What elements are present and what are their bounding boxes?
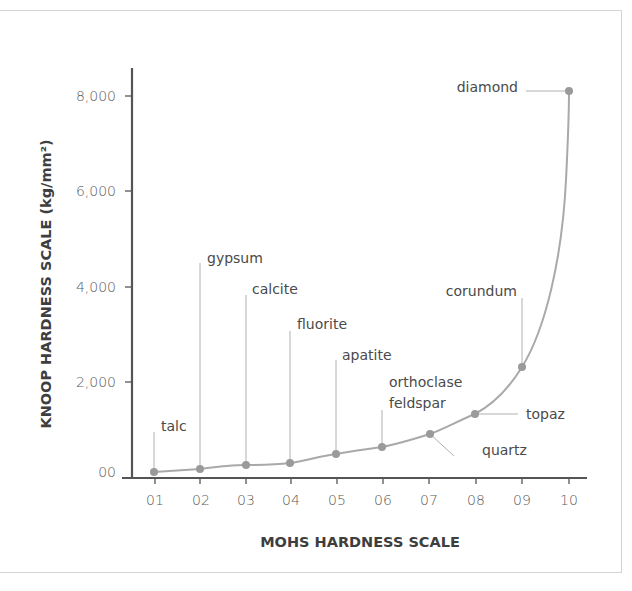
label-diamond: diamond xyxy=(457,79,518,95)
point-apatite xyxy=(332,450,340,458)
y-tick-labels: 8,000 6,000 4,000 2,000 00 xyxy=(76,88,116,480)
y-tick-label: 00 xyxy=(98,464,116,480)
x-tick-label: 01 xyxy=(146,492,164,508)
y-tick-label: 6,000 xyxy=(76,183,116,199)
x-tick-labels: 01 02 03 04 05 06 07 08 09 10 xyxy=(146,492,578,508)
y-tick-label: 8,000 xyxy=(76,88,116,104)
y-tick-label: 4,000 xyxy=(76,279,116,295)
label-apatite: apatite xyxy=(342,347,392,363)
point-gypsum xyxy=(196,465,204,473)
x-tick-label: 10 xyxy=(560,492,578,508)
point-talc xyxy=(150,468,158,476)
label-talc: talc xyxy=(161,418,187,434)
data-points xyxy=(150,87,573,476)
x-tick-label: 07 xyxy=(420,492,438,508)
x-tick-label: 05 xyxy=(328,492,346,508)
y-tick-label: 2,000 xyxy=(76,374,116,390)
label-fluorite: fluorite xyxy=(297,316,347,332)
point-calcite xyxy=(242,461,250,469)
label-quartz: quartz xyxy=(482,442,527,458)
point-orthoclase xyxy=(378,443,386,451)
hardness-curve xyxy=(154,91,569,472)
label-corundum: corundum xyxy=(446,283,517,299)
point-quartz xyxy=(426,430,434,438)
point-topaz xyxy=(471,410,479,418)
hardness-chart: KNOOP HARDNESS SCALE (kg/mm²) 8,000 6,00… xyxy=(0,0,632,591)
x-tick-label: 06 xyxy=(374,492,392,508)
x-tick-label: 08 xyxy=(467,492,485,508)
label-calcite: calcite xyxy=(252,281,298,297)
x-axis-title: MOHS HARDNESS SCALE xyxy=(260,534,460,550)
point-fluorite xyxy=(286,459,294,467)
x-tick-label: 04 xyxy=(282,492,300,508)
point-diamond xyxy=(565,87,573,95)
x-tick-label: 02 xyxy=(192,492,210,508)
x-tick-label: 03 xyxy=(237,492,255,508)
mineral-labels: talc gypsum calcite fluorite apatite ort… xyxy=(161,79,565,458)
label-topaz: topaz xyxy=(526,406,565,422)
label-gypsum: gypsum xyxy=(207,250,263,266)
leader-lines xyxy=(154,91,568,471)
y-axis-title: KNOOP HARDNESS SCALE (kg/mm²) xyxy=(38,139,54,428)
y-ticks xyxy=(125,96,131,382)
point-corundum xyxy=(518,363,526,371)
label-feldspar: feldspar xyxy=(389,395,446,411)
leader-quartz xyxy=(430,434,454,456)
x-tick-label: 09 xyxy=(513,492,531,508)
label-orthoclase: orthoclase xyxy=(389,374,462,390)
